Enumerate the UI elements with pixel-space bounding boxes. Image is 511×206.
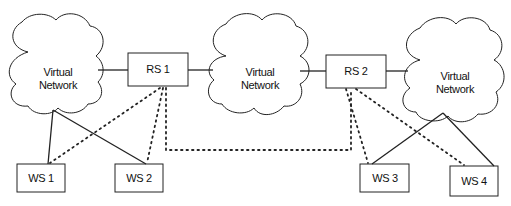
cloud-label-vn3: Virtual Network xyxy=(420,70,490,96)
cloud-label-line2: Network xyxy=(23,79,93,92)
workstation-label-ws1: WS 1 xyxy=(17,172,65,185)
cloud-label-line1: Virtual xyxy=(225,66,295,79)
cloud-label-vn1: Virtual Network xyxy=(23,66,93,92)
router-label-rs2: RS 2 xyxy=(326,65,386,78)
workstation-label-ws4: WS 4 xyxy=(450,175,498,188)
network-diagram xyxy=(0,0,511,206)
cloud-label-line1: Virtual xyxy=(420,70,490,83)
workstation-label-ws2: WS 2 xyxy=(115,172,163,185)
cloud-label-line1: Virtual xyxy=(23,66,93,79)
cloud-virtual-network-2 xyxy=(208,14,309,115)
dotted-links xyxy=(50,88,464,165)
cloud-label-vn2: Virtual Network xyxy=(225,66,295,92)
router-label-rs1: RS 1 xyxy=(128,63,188,76)
cloud-virtual-network-1 xyxy=(9,14,103,114)
cloud-label-line2: Network xyxy=(225,79,295,92)
cloud-label-line2: Network xyxy=(420,83,490,96)
workstation-label-ws3: WS 3 xyxy=(361,172,409,185)
